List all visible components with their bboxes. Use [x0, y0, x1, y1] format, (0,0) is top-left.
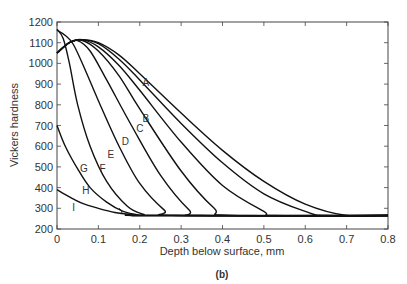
x-tick-label: 0.7: [339, 233, 354, 245]
curve-g: [57, 29, 388, 215]
x-axis-ticks: 00.10.20.30.40.50.60.70.8: [54, 22, 396, 245]
x-tick-label: 0.3: [173, 233, 188, 245]
curve-e: [57, 40, 388, 216]
x-axis-label: Depth below surface, mm: [160, 245, 285, 257]
curve-d: [57, 40, 388, 216]
x-tick-label: 0.5: [256, 233, 271, 245]
curve-labels: ABCDEFGHI: [72, 77, 149, 213]
curve-label-h: H: [82, 185, 89, 196]
curve-c: [57, 39, 388, 215]
curve-label-a: A: [143, 77, 150, 88]
curve-label-g: G: [80, 163, 88, 174]
y-tick-label: 1100: [29, 37, 53, 49]
x-tick-label: 0.8: [380, 233, 395, 245]
hardness-depth-chart: 200300400500600700800900100011001200 00.…: [0, 0, 407, 284]
y-tick-label: 700: [35, 120, 53, 132]
x-tick-label: 0.4: [215, 233, 230, 245]
curve-a: [57, 40, 388, 217]
x-tick-label: 0.2: [132, 233, 147, 245]
curve-label-i: I: [72, 202, 75, 213]
curves: [57, 29, 388, 216]
y-tick-label: 1200: [29, 16, 53, 28]
x-tick-label: 0.6: [298, 233, 313, 245]
y-tick-label: 200: [35, 223, 53, 235]
y-tick-label: 1000: [29, 57, 53, 69]
x-tick-label: 0: [54, 233, 60, 245]
curve-h: [57, 126, 388, 216]
x-tick-label: 0.1: [91, 233, 106, 245]
curve-label-d: D: [122, 136, 129, 147]
figure-caption: (b): [216, 269, 229, 280]
curve-label-b: B: [143, 113, 150, 124]
y-tick-label: 300: [35, 202, 53, 214]
curve-f: [57, 30, 388, 216]
y-tick-label: 400: [35, 182, 53, 194]
y-axis-label: Vickers hardness: [8, 82, 20, 167]
y-tick-label: 500: [35, 161, 53, 173]
y-tick-label: 800: [35, 99, 53, 111]
curve-label-e: E: [107, 149, 114, 160]
curve-label-c: C: [136, 123, 143, 134]
y-tick-label: 900: [35, 78, 53, 90]
y-tick-label: 600: [35, 140, 53, 152]
curve-label-f: F: [99, 163, 105, 174]
curve-b: [57, 40, 388, 216]
